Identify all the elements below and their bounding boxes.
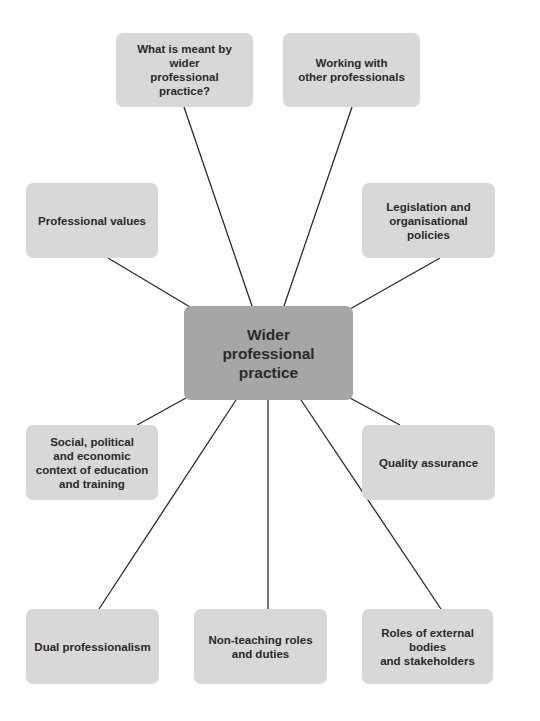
link-social [137, 398, 186, 425]
link-meaning [184, 107, 252, 306]
node-label: Quality assurance [379, 456, 478, 470]
link-legislation [350, 258, 440, 309]
center-label: Wider professional practice [222, 325, 314, 382]
node-meaning: What is meant by wider professional prac… [116, 33, 253, 107]
node-quality: Quality assurance [362, 425, 495, 500]
node-label: Working with other professionals [298, 56, 405, 84]
node-values: Professional values [26, 183, 158, 258]
node-legislation: Legislation and organisational policies [362, 183, 495, 258]
node-label: Roles of external bodies and stakeholder… [370, 626, 485, 668]
node-label: What is meant by wider professional prac… [124, 42, 245, 98]
node-social: Social, political and economic context o… [26, 425, 158, 500]
link-working [284, 107, 352, 306]
node-label: Dual professionalism [34, 640, 150, 654]
node-dual: Dual professionalism [26, 609, 159, 684]
link-quality [350, 398, 400, 425]
node-working: Working with other professionals [283, 33, 420, 107]
node-label: Social, political and economic context o… [36, 435, 148, 491]
node-label: Legislation and organisational policies [370, 200, 487, 242]
center-node: Wider professional practice [184, 306, 353, 400]
node-external: Roles of external bodies and stakeholder… [362, 609, 493, 684]
node-nonteaching: Non-teaching roles and duties [194, 609, 327, 684]
link-values [108, 258, 190, 307]
node-label: Non-teaching roles and duties [208, 633, 312, 661]
node-label: Professional values [38, 214, 146, 228]
